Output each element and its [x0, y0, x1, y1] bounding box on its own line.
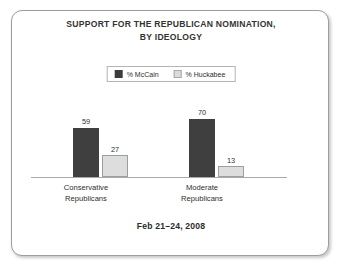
bar-value-huckabee-moderate: 13: [227, 156, 235, 165]
category-label-line-1: Conservative: [26, 183, 146, 194]
bar-value-huckabee-conservative: 27: [111, 145, 119, 154]
category-label-conservative-republicans: Conservative Republicans: [26, 183, 146, 204]
category-label-line-2: Republicans: [142, 194, 262, 205]
bar-mccain-conservative: 59: [73, 128, 99, 177]
bar-huckabee-conservative: 27: [102, 155, 128, 177]
category-label-moderate-republicans: Moderate Republicans: [142, 183, 262, 204]
bar-mccain-moderate: 70: [189, 119, 215, 177]
bar-value-mccain-conservative: 59: [82, 117, 90, 126]
bar-value-mccain-moderate: 70: [198, 108, 206, 117]
category-label-line-2: Republicans: [26, 194, 146, 205]
axis-baseline: [31, 177, 287, 178]
category-label-line-1: Moderate: [142, 183, 262, 194]
chart-footer-date: Feb 21–24, 2008: [0, 221, 342, 231]
bar-huckabee-moderate: 13: [218, 166, 244, 177]
